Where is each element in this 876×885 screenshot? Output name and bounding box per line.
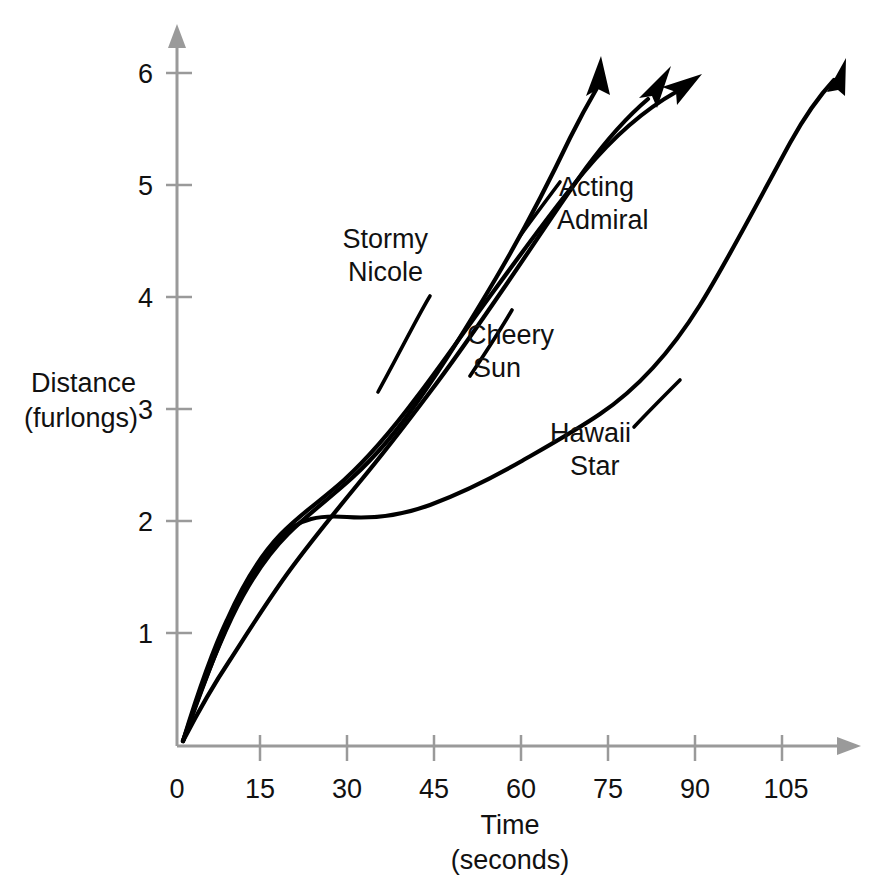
hawaii-star-label-line1: Hawaii <box>550 418 631 448</box>
x-axis-arrowhead <box>837 737 861 755</box>
y-tick-label-3: 3 <box>138 395 153 425</box>
y-axis-title: Distance (furlongs) <box>24 368 138 433</box>
stormy-nicole-label-line1: Stormy <box>342 224 428 254</box>
acting-admiral-label-line1: Acting <box>559 172 634 202</box>
x-tick-label-75: 75 <box>593 774 623 804</box>
y-tick-label-5: 5 <box>138 171 153 201</box>
x-tick-label-60: 60 <box>506 774 536 804</box>
chart-canvas: 6 5 4 3 2 1 0 15 30 45 60 75 90 105 Dist… <box>0 0 876 885</box>
x-axis-title-line2: (seconds) <box>451 845 570 875</box>
x-tick-labels: 0 15 30 45 60 75 90 105 <box>169 774 808 804</box>
x-tick-label-105: 105 <box>763 774 808 804</box>
hawaii-star-label-line2: Star <box>570 451 620 481</box>
acting-admiral-label-line2: Admiral <box>557 205 649 235</box>
y-tick-label-4: 4 <box>138 283 153 313</box>
y-axis-title-line2: (furlongs) <box>24 403 138 433</box>
series-label-acting-admiral: Acting Admiral <box>557 172 649 235</box>
y-tick-label-6: 6 <box>138 59 153 89</box>
x-axis-title-line1: Time <box>481 810 540 840</box>
series-curve-stormy-nicole <box>183 56 610 741</box>
hawaii-star-leader-line <box>634 380 680 427</box>
series-label-hawaii-star: Hawaii Star <box>550 418 631 481</box>
cheery-sun-label-line1: Cheery <box>467 320 555 350</box>
x-tick-label-30: 30 <box>332 774 362 804</box>
y-tick-label-2: 2 <box>138 507 153 537</box>
series-curve-hawaii-star <box>183 58 846 741</box>
stormy-nicole-path <box>183 88 597 741</box>
hawaii-star-path <box>183 80 834 741</box>
y-tick-labels: 6 5 4 3 2 1 <box>138 59 153 649</box>
x-tick-label-0: 0 <box>169 774 184 804</box>
x-tick-label-45: 45 <box>419 774 449 804</box>
stormy-nicole-leader-line <box>378 296 430 392</box>
series-label-stormy-nicole: Stormy Nicole <box>342 224 428 287</box>
y-axis-arrowhead <box>168 24 186 48</box>
y-axis-title-line1: Distance <box>31 368 136 398</box>
horse-race-distance-time-chart: 6 5 4 3 2 1 0 15 30 45 60 75 90 105 Dist… <box>0 0 876 885</box>
x-axis-title: Time (seconds) <box>451 810 570 875</box>
hawaii-star-arrowhead <box>827 58 846 96</box>
x-tick-label-15: 15 <box>245 774 275 804</box>
cheery-sun-arrowhead <box>662 74 702 105</box>
x-tick-label-90: 90 <box>680 774 710 804</box>
series-curve-acting-admiral <box>183 66 671 741</box>
axes-group <box>166 24 861 761</box>
stormy-nicole-label-line2: Nicole <box>348 257 423 287</box>
y-tick-label-1: 1 <box>138 619 153 649</box>
series-label-cheery-sun: Cheery Sun <box>467 320 555 383</box>
cheery-sun-label-line2: Sun <box>473 353 521 383</box>
